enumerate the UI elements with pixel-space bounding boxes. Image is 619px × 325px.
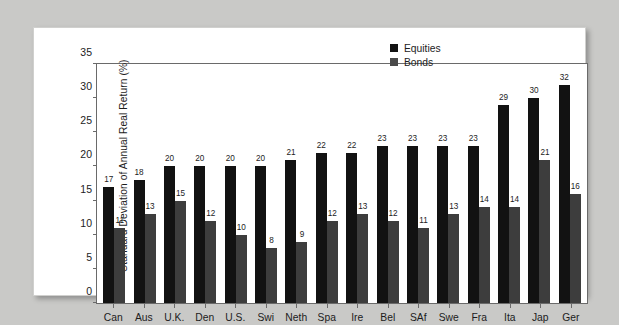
x-tick-mark — [449, 304, 450, 308]
bar-value-label: 14 — [510, 196, 519, 204]
x-tick-label: Fra — [464, 312, 495, 323]
x-tick-ger: Ger — [556, 304, 587, 325]
bar-bonds-uk: 15 — [175, 201, 186, 303]
bar-value-label: 17 — [104, 176, 113, 184]
x-tick-mark — [174, 304, 175, 308]
x-tick-mark — [571, 304, 572, 308]
bar-value-label: 23 — [469, 135, 478, 143]
x-tick-label: Den — [190, 312, 221, 323]
bar-value-label: 21 — [540, 149, 549, 157]
x-tick-label: Spa — [312, 312, 343, 323]
x-tick-mark — [205, 304, 206, 308]
x-axis: CanAusU.K.DenU.S.SwiNethSpaIreBelSAfSweF… — [96, 304, 588, 325]
y-tick-label: 10 — [80, 217, 92, 229]
bar-bonds-ger: 16 — [570, 194, 581, 303]
x-tick-bel: Bel — [373, 304, 404, 325]
bar-value-label: 12 — [206, 210, 215, 218]
y-tick-label: 5 — [86, 251, 92, 263]
bar-value-label: 15 — [176, 190, 185, 198]
bar-value-label: 10 — [237, 224, 246, 232]
bar-bonds-aus: 13 — [145, 214, 156, 303]
bar-equities-aus: 18 — [134, 180, 145, 303]
y-tick-label: 30 — [80, 80, 92, 92]
x-tick-saf: SAf — [403, 304, 434, 325]
bar-group: 2012 — [190, 64, 220, 303]
bar-equities-ita: 29 — [498, 105, 509, 303]
y-tick-label: 15 — [80, 183, 92, 195]
bar-bonds-neth: 9 — [296, 242, 307, 303]
bar-value-label: 23 — [438, 135, 447, 143]
x-tick-jap: Jap — [525, 304, 556, 325]
bar-bonds-ire: 13 — [357, 214, 368, 303]
x-tick-mark — [418, 304, 419, 308]
bar-groups: 1711181320152012201020821922122213231223… — [97, 64, 587, 303]
x-tick-fra: Fra — [464, 304, 495, 325]
chart-legend: EquitiesBonds — [390, 41, 441, 69]
bar-value-label: 21 — [286, 149, 295, 157]
plot-area: Standard Deviation of Annual Real Return… — [96, 63, 588, 304]
bar-equities-den: 20 — [194, 166, 205, 303]
bar-value-label: 22 — [317, 142, 326, 150]
bar-equities-can: 17 — [103, 187, 114, 303]
bar-equities-swi: 20 — [255, 166, 266, 303]
bar-value-label: 16 — [571, 183, 580, 191]
x-tick-label: Neth — [281, 312, 312, 323]
y-tick-label: 0 — [86, 285, 92, 297]
bar-value-label: 22 — [347, 142, 356, 150]
bar-value-label: 32 — [560, 74, 569, 82]
x-tick-label: Ire — [342, 312, 373, 323]
x-tick-neth: Neth — [281, 304, 312, 325]
bar-bonds-saf: 11 — [418, 228, 429, 303]
x-tick-swi: Swi — [251, 304, 282, 325]
bar-value-label: 23 — [408, 135, 417, 143]
x-tick-ire: Ire — [342, 304, 373, 325]
bar-group: 1813 — [129, 64, 159, 303]
x-tick-label: Can — [98, 312, 129, 323]
x-tick-uk: U.K. — [159, 304, 190, 325]
bar-bonds-bel: 12 — [388, 221, 399, 303]
bar-value-label: 18 — [135, 169, 144, 177]
bar-bonds-ita: 14 — [509, 207, 520, 303]
bar-bonds-swe: 13 — [448, 214, 459, 303]
x-tick-mark — [540, 304, 541, 308]
bar-equities-neth: 21 — [285, 160, 296, 303]
bar-group: 2015 — [160, 64, 190, 303]
x-tick-ita: Ita — [495, 304, 526, 325]
bar-value-label: 13 — [146, 203, 155, 211]
legend-item-bonds: Bonds — [390, 55, 441, 69]
x-tick-us: U.S. — [220, 304, 251, 325]
bar-group: 2213 — [342, 64, 372, 303]
x-tick-label: U.S. — [220, 312, 251, 323]
x-tick-label: U.K. — [159, 312, 190, 323]
bar-value-label: 13 — [449, 203, 458, 211]
bar-value-label: 29 — [499, 94, 508, 102]
bar-equities-us: 20 — [225, 166, 236, 303]
bar-bonds-us: 10 — [236, 235, 247, 303]
bar-group: 2313 — [433, 64, 463, 303]
bar-value-label: 20 — [226, 155, 235, 163]
y-tick-label: 20 — [80, 148, 92, 160]
bar-value-label: 20 — [256, 155, 265, 163]
x-tick-mark — [113, 304, 114, 308]
x-tick-mark — [235, 304, 236, 308]
bar-bonds-den: 12 — [205, 221, 216, 303]
x-tick-mark — [510, 304, 511, 308]
figure-card: Standard Deviation of Annual Real Return… — [33, 27, 586, 296]
bar-group: 219 — [281, 64, 311, 303]
x-tick-label: SAf — [403, 312, 434, 323]
bar-equities-fra: 23 — [468, 146, 479, 303]
bar-value-label: 12 — [389, 210, 398, 218]
x-tick-mark — [266, 304, 267, 308]
bar-bonds-swi: 8 — [266, 248, 277, 303]
bar-value-label: 20 — [165, 155, 174, 163]
x-tick-label: Jap — [525, 312, 556, 323]
bar-equities-saf: 23 — [407, 146, 418, 303]
x-tick-aus: Aus — [129, 304, 160, 325]
bar-group: 3216 — [555, 64, 585, 303]
bar-value-label: 30 — [529, 87, 538, 95]
bar-group: 3021 — [524, 64, 554, 303]
legend-item-equities: Equities — [390, 41, 441, 55]
bonds-swatch — [390, 58, 398, 66]
x-tick-mark — [357, 304, 358, 308]
bar-bonds-fra: 14 — [479, 207, 490, 303]
